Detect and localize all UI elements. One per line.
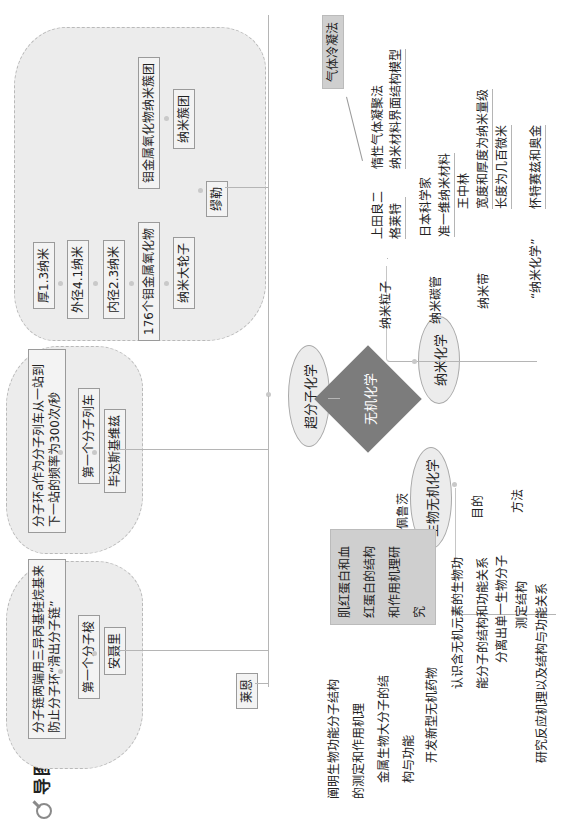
node-label: 莱恩 [240,679,254,703]
callout-label: 气体冷凝法 [326,22,340,82]
node-anjieli[interactable]: 安聂里 [104,627,126,675]
connector-dot [452,482,457,487]
detail-label: 怀特赛兹和奥金 [529,125,543,209]
connector-dot [198,188,203,193]
detail-label: 宽度和厚度为纳米量级 [476,89,490,209]
center-label: 无机化学 [360,344,379,454]
link-line [268,396,269,397]
desc-molecular-shuttle: 分子链两端用三异丙基硅烷基来防止分子环“滑出分子链” [28,559,66,739]
node-laien[interactable]: 莱恩 [236,673,258,709]
node-inner-diameter[interactable]: 内径2.3纳米 [103,240,125,319]
item-label: 纳米带 [477,273,491,309]
connector-dot [164,116,169,121]
bio-item-perutz[interactable]: 佩鲁茨 [395,493,412,529]
item-label: “纳米化学” [529,239,543,299]
detail-label: 纳米材料界面结构模型 [389,49,403,169]
sub-determine-structure: 测定结构 [514,581,531,629]
callout-gas-condensation: 气体冷凝法 [322,15,344,89]
sub-metal-biomolecule: 金属生物大分子的结构与功能 [372,675,422,783]
person-label: 日本科学家 [419,177,433,237]
node-label: 内径2.3纳米 [107,246,121,313]
item-label: 纳米粒子 [379,281,393,329]
person-label: 上田良二 [371,191,385,239]
sub-label: 认识含无机元素的生物功能分子的结构和功能关系 [451,557,490,689]
mind-map-canvas: 导图 分子链两端用三异丙基硅烷基来防止分子环“滑出分子链” 第一个分子梭 安聂里… [0,0,574,829]
link-line [118,449,268,450]
node-nano-cluster[interactable]: 纳米簇团 [173,89,195,149]
connector-dot [58,450,63,455]
bio-item-method[interactable]: 方法 [510,489,527,513]
node-first-molecular-train[interactable]: 第一个分子列车 [78,388,100,484]
sub-label: 阐明生物功能分子结构的测定和作用机理 [327,679,366,799]
detail-length: 长度为几百微米 [494,125,512,209]
detail-label: 长度为几百微米 [495,125,509,209]
desc-text: 分子环a作为分子列车从一站到下一站的频率为300次/秒 [32,364,62,527]
desc-molecular-train: 分子环a作为分子列车从一站到下一站的频率为300次/秒 [28,349,66,533]
node-label: 缪勒 [210,187,224,211]
sub-separate: 分离出单一生物分子 [494,555,511,663]
nano-item-belt[interactable]: 纳米带 [476,273,493,309]
person-gleiter: 格莱特 [388,197,406,239]
detail-label: 惰性气体凝聚法 [371,85,385,169]
node-bidasijiweizi[interactable]: 毕达斯基维兹 [104,409,126,493]
connector-dot [164,281,169,286]
person-japanese-scientist: 日本科学家 [418,177,435,237]
node-label: 第一个分子梭 [82,621,96,693]
node-label: 安聂里 [108,633,122,669]
node-label: 厚1.3纳米 [37,248,51,303]
nano-item-nanochemistry[interactable]: “纳米化学” [528,239,545,299]
nano-item-tube[interactable]: 纳米碳管 [428,276,445,324]
sub-label: 研究反应机理以及结构与功能关系 [535,583,549,763]
connector-dot [129,281,134,286]
node-thick[interactable]: 厚1.3纳米 [33,242,55,309]
node-label: 生物无机化学 [422,459,441,537]
sub-new-drugs: 开发新型无机药物 [424,667,441,763]
detail-quasi-1d: 准一维纳米材料 [437,153,455,237]
arrow-line [346,97,363,161]
nano-item-particle[interactable]: 纳米粒子 [378,281,395,329]
node-label: 钼金属氧化物纳米簇团 [142,63,156,183]
node-outer-diameter[interactable]: 外径4.1纳米 [67,240,89,319]
person-wang-zhonglin: 王中林 [456,173,473,209]
connector-dot [92,651,97,656]
link-line [255,683,268,684]
sub-study-mechanism: 研究反应机理以及结构与功能关系 [534,583,551,763]
node-label: 纳米大轮子 [177,243,191,303]
box-label: 肌红蛋白和血红蛋白的结构和作用机理研究 [338,546,427,618]
node-label: 纳米簇团 [177,95,191,143]
sub-label: 分离出单一生物分子 [495,555,509,663]
detail-inert-gas: 惰性气体凝聚法 [370,85,387,169]
sub-label: 开发新型无机药物 [425,667,439,763]
link-line [118,650,268,651]
link-line [387,258,388,259]
magnifier-icon [32,801,50,819]
desc-text: 分子链两端用三异丙基硅烷基来防止分子环“滑出分子链” [32,565,62,733]
node-label: 外径4.1纳米 [71,246,85,313]
link-line [328,398,340,399]
connector-dot [412,359,417,364]
node-176-mo-oxide[interactable]: 176个钼金属氧化物 [138,222,160,341]
person-label: 王中林 [457,173,471,209]
connector-dot [92,450,97,455]
detail-interface-model: 纳米材料界面结构模型 [388,49,406,169]
item-label: 方法 [511,489,525,513]
detail-width-thickness: 宽度和厚度为纳米量级 [475,89,493,209]
sub-label: 金属生物大分子的结构与功能 [377,675,416,783]
item-label: 目的 [471,495,485,519]
link-line [225,187,268,188]
item-label: 佩鲁茨 [396,493,410,529]
sub-recognize-structure: 认识含无机元素的生物功能分子的结构和功能关系 [446,549,496,689]
connector-dot [58,281,63,286]
detail-label: 准一维纳米材料 [438,153,452,237]
sub-elucidate-structure: 阐明生物功能分子结构的测定和作用机理 [322,679,372,799]
node-first-molecular-shuttle[interactable]: 第一个分子梭 [78,615,100,699]
item-label: 纳米碳管 [429,276,443,324]
node-mo-oxide-cluster[interactable]: 钼金属氧化物纳米簇团 [138,57,160,189]
person-label: 格莱特 [389,203,403,239]
node-nano-wheel[interactable]: 纳米大轮子 [173,237,195,309]
person-ueda: 上田良二 [370,191,387,239]
box-myoglobin-study: 肌红蛋白和血红蛋白的结构和作用机理研究 [330,529,436,625]
nano-items-bracket [386,266,537,362]
node-label: 176个钼金属氧化物 [142,228,156,335]
bio-item-purpose[interactable]: 目的 [470,495,487,519]
